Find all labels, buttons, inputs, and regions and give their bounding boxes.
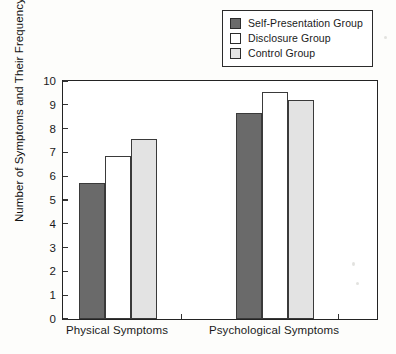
bar [288,100,314,319]
y-tick-mark [63,247,68,248]
y-tick-label: 9 [33,99,63,111]
y-tick-label: 2 [33,265,63,277]
y-tick-mark [63,104,68,105]
x-tick-mark [181,314,182,319]
y-tick-label: 5 [33,194,63,206]
y-tick-mark [63,318,68,319]
y-axis-title: Number of Symptoms and Their Frequency [13,0,25,235]
y-tick-label: 4 [33,218,63,230]
scan-speckle [384,36,387,39]
legend-label-self-presentation-group: Self-Presentation Group [248,18,363,29]
legend-swatch-self-presentation-group [230,18,241,29]
y-tick-mark [63,199,68,200]
bar [262,92,288,319]
legend-item-self-presentation-group: Self-Presentation Group [230,16,363,31]
scan-speckle [352,262,355,266]
chart-legend: Self-Presentation Group Disclosure Group… [222,10,373,67]
bar [79,183,105,319]
x-axis-category-label: Psychological Symptoms [204,324,344,336]
legend-item-control-group: Control Group [230,46,363,61]
y-tick-mark [63,80,68,81]
y-tick-label: 3 [33,242,63,254]
y-tick-label: 7 [33,146,63,158]
y-tick-mark [63,176,68,177]
plot-inner: 012345678910 [63,81,377,319]
scan-speckle [356,282,359,285]
legend-swatch-control-group [230,48,241,59]
legend-label-disclosure-group: Disclosure Group [248,33,331,44]
bar [131,139,157,319]
legend-label-control-group: Control Group [248,48,315,59]
y-tick-label: 1 [33,289,63,301]
y-tick-mark [63,152,68,153]
plot-area: 012345678910 [62,80,378,320]
y-tick-mark [63,223,68,224]
bar [105,156,131,319]
bar [236,113,262,319]
y-tick-label: 10 [33,75,63,87]
y-tick-label: 8 [33,123,63,135]
x-tick-mark [338,314,339,319]
y-tick-mark [63,128,68,129]
legend-item-disclosure-group: Disclosure Group [230,31,363,46]
y-tick-label: 6 [33,170,63,182]
y-tick-mark [63,271,68,272]
legend-swatch-disclosure-group [230,33,241,44]
x-axis-category-label: Physical Symptoms [47,324,187,336]
bar-chart-figure: Self-Presentation Group Disclosure Group… [0,0,396,354]
y-tick-mark [63,295,68,296]
